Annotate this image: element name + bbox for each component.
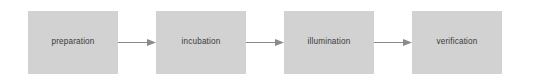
process-node-label: incubation (182, 38, 221, 46)
process-node-incubation[interactable]: incubation (156, 11, 246, 74)
process-node-verification[interactable]: verification (412, 11, 502, 74)
flow-sequence: preparation incubation illumination (0, 0, 533, 84)
process-node-label: preparation (51, 38, 94, 46)
arrow-right-icon (374, 38, 412, 47)
process-node-label: verification (437, 38, 478, 46)
arrow-right-icon (118, 38, 156, 47)
process-node-label: illumination (308, 38, 351, 46)
process-flow-diagram: preparation incubation illumination (0, 0, 533, 84)
process-node-preparation[interactable]: preparation (28, 11, 118, 74)
process-node-illumination[interactable]: illumination (284, 11, 374, 74)
arrow-right-icon (246, 38, 284, 47)
